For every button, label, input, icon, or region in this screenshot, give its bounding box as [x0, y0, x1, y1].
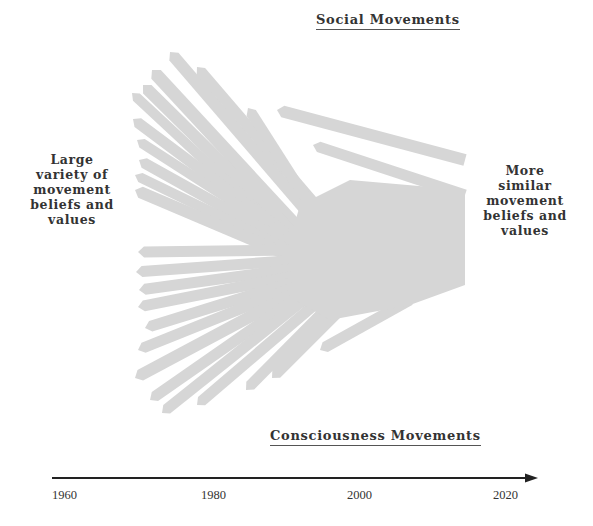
consciousness-movements-heading: Consciousness Movements [270, 428, 481, 446]
label-line: values [480, 223, 570, 238]
timeline-arrowhead-icon [525, 474, 538, 483]
timeline-tick-1960: 1960 [52, 488, 77, 503]
timeline-tick-1980: 1980 [201, 488, 226, 503]
label-line: beliefs and [22, 197, 122, 212]
movement-strand [277, 106, 467, 166]
label-line: similar [480, 178, 570, 193]
convergence-diagram [0, 0, 593, 526]
right-label-more-similar: Moresimilarmovementbeliefs andvalues [480, 163, 570, 238]
label-line: movement [22, 182, 122, 197]
label-line: variety of [22, 167, 122, 182]
left-label-large-variety: Largevariety ofmovementbeliefs andvalues [22, 152, 122, 227]
label-line: beliefs and [480, 208, 570, 223]
timeline-tick-2000: 2000 [347, 488, 372, 503]
social-movements-heading: Social Movements [316, 12, 460, 30]
label-line: movement [480, 193, 570, 208]
converged-core [290, 180, 465, 320]
movement-strand [138, 245, 300, 258]
label-line: More [480, 163, 570, 178]
label-line: Large [22, 152, 122, 167]
label-line: values [22, 212, 122, 227]
timeline-tick-2020: 2020 [493, 488, 518, 503]
